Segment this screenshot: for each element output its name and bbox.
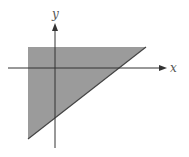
x-axis-arrow-icon bbox=[159, 65, 167, 71]
coordinate-diagram: x y bbox=[0, 0, 189, 157]
x-axis-label: x bbox=[170, 61, 177, 75]
y-axis-arrow-icon bbox=[52, 23, 58, 31]
y-axis-label: y bbox=[51, 7, 59, 21]
